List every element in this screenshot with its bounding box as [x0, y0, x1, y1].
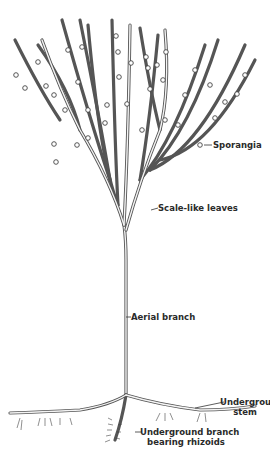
label-aerial-branch: Aerial branch [131, 312, 195, 322]
label-underground-branch-line1: Underground branch [140, 427, 232, 437]
leader-lines [126, 145, 224, 432]
label-underground-stem-line1: Underground [220, 397, 270, 407]
label-sporangia: Sporangia [213, 140, 262, 150]
plant-diagram [0, 0, 270, 455]
label-underground-stem: Underground stem [220, 397, 270, 417]
label-underground-branch: Underground branch bearing rhizoids [140, 427, 232, 447]
label-underground-branch-line2: bearing rhizoids [140, 437, 232, 447]
label-scale-like-leaves: Scale-like leaves [158, 203, 238, 213]
label-underground-stem-line2: stem [220, 407, 270, 417]
